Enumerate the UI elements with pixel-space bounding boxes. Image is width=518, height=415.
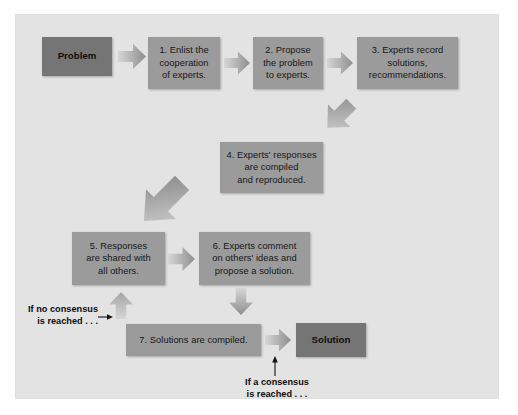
arrow-step7-to-solution [265, 328, 291, 352]
arrow-step4-to-step5 [128, 167, 198, 237]
node-step1-label: 1. Enlist the cooperation of experts. [156, 44, 211, 81]
node-step7-label: 7. Solutions are compiled. [136, 334, 250, 346]
node-step4-label: 4. Experts' responses are compiled and r… [223, 149, 319, 186]
arrow-step5-to-step6 [168, 247, 195, 271]
arrow-step3-to-step4 [316, 91, 364, 139]
pointer-arrow-yes-consensus [270, 356, 280, 376]
node-step3: 3. Experts record solutions, recommendat… [357, 37, 458, 89]
node-problem-label: Problem [55, 50, 100, 62]
caption-no-consensus-line1: If no consensus [28, 304, 98, 314]
caption-yes-consensus-line2: is reached . . . [247, 389, 308, 399]
node-step5-label: 5. Responses are shared with all others. [83, 240, 153, 277]
node-problem: Problem [42, 37, 112, 76]
pointer-arrow-no-consensus [98, 312, 114, 322]
node-step4: 4. Experts' responses are compiled and r… [220, 142, 323, 193]
arrow-step1-to-step2 [224, 51, 250, 75]
caption-yes-consensus: If a consensus is reached . . . [222, 376, 332, 400]
node-step7: 7. Solutions are compiled. [126, 324, 261, 356]
node-step6-label: 6. Experts comment on others' ideas and … [209, 240, 299, 277]
diagram-panel: Problem 1. Enlist the cooperation of exp… [16, 15, 498, 398]
node-solution-label: Solution [309, 334, 354, 346]
figure-canvas: Problem 1. Enlist the cooperation of exp… [0, 0, 518, 415]
arrow-problem-to-step1 [118, 44, 146, 69]
caption-no-consensus-line2: is reached . . . [37, 316, 98, 326]
node-step5: 5. Responses are shared with all others. [72, 232, 165, 285]
node-solution: Solution [296, 323, 366, 357]
arrow-step2-to-step3 [327, 51, 353, 75]
node-step2: 2. Propose the problem to experts. [253, 37, 323, 89]
arrow-step6-to-step7 [229, 288, 253, 315]
node-step3-label: 3. Experts record solutions, recommendat… [366, 44, 449, 81]
node-step2-label: 2. Propose the problem to experts. [260, 44, 316, 81]
node-step1: 1. Enlist the cooperation of experts. [148, 37, 220, 89]
caption-yes-consensus-line1: If a consensus [245, 377, 309, 387]
caption-no-consensus: If no consensus is reached . . . [18, 303, 98, 327]
node-step6: 6. Experts comment on others' ideas and … [199, 232, 310, 285]
